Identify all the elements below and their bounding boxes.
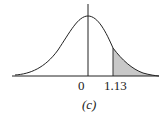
- shaded-tail-area: [113, 48, 159, 76]
- normal-curve: [15, 16, 159, 76]
- figure-caption: (c): [82, 98, 96, 111]
- tick-label-zero: 0: [78, 79, 85, 92]
- tick-label-z-value: 1.13: [104, 79, 127, 92]
